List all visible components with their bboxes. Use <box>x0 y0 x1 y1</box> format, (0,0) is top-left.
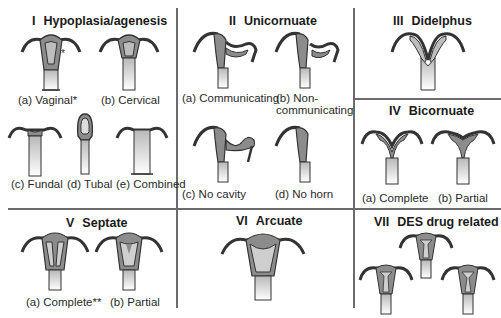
label-communicating: (a) Communicating <box>182 92 279 105</box>
label-bicornuate-complete: (a) Complete <box>362 192 428 205</box>
section-title: VSeptate <box>66 216 128 230</box>
asterisk-mark: * <box>61 47 65 60</box>
divider-vertical-left <box>176 8 178 308</box>
divider-vertical-right <box>353 8 355 308</box>
uterus-des-figure-left <box>358 262 414 316</box>
section-title: IIUnicornuate <box>229 14 317 28</box>
divider-horizontal-right-top <box>354 98 501 100</box>
section-title: IVBicornuate <box>389 104 474 118</box>
uterus-unicornuate-no-horn-figure <box>272 122 322 184</box>
uterus-des-figure-right <box>440 262 496 316</box>
label-vaginal: (a) Vaginal* <box>18 94 77 107</box>
uterus-tubal-agenesis-figure <box>74 112 96 176</box>
label-combined: (e) Combined <box>116 178 186 191</box>
uterus-unicornuate-communicating-figure <box>190 28 260 90</box>
label-no-horn: (d) No horn <box>275 188 333 201</box>
uterus-fundal-agenesis-figure <box>6 118 64 178</box>
label-tubal: (d) Tubal <box>67 178 112 191</box>
label-bicornuate-partial: (b) Partial <box>438 192 488 205</box>
uterus-combined-agenesis-figure <box>114 118 170 176</box>
divider-horizontal-middle <box>8 208 501 210</box>
label-fundal: (c) Fundal <box>11 178 63 191</box>
uterus-septate-complete-figure <box>20 230 90 292</box>
uterus-septate-partial-figure <box>94 230 164 292</box>
uterus-unicornuate-no-cavity-figure <box>190 122 260 184</box>
uterus-cervical-agenesis-figure <box>96 30 162 92</box>
label-no-cavity: (c) No cavity <box>182 188 246 201</box>
label-cervical: (b) Cervical <box>101 94 160 107</box>
section-title: IIIDidelphus <box>393 14 472 28</box>
section-title: IHypoplasia/agenesis <box>32 14 167 28</box>
uterus-unicornuate-noncommunicating-figure <box>272 28 342 90</box>
uterus-bicornuate-partial-figure <box>430 126 496 186</box>
label-communicating-2: communicating <box>276 104 353 117</box>
label-septate-complete: (a) Complete** <box>26 296 101 309</box>
uterus-vaginal-agenesis-figure <box>18 30 84 92</box>
uterus-didelphus-figure <box>388 30 468 92</box>
label-septate-partial: (b) Partial <box>110 296 160 309</box>
uterus-bicornuate-complete-figure <box>360 126 424 186</box>
uterus-arcuate-figure <box>220 228 306 302</box>
section-title: VIArcuate <box>236 214 302 228</box>
section-title: VIIDES drug related <box>374 215 499 229</box>
